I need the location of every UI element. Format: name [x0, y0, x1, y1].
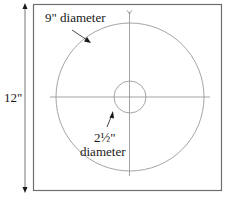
square-outline	[34, 5, 222, 191]
diagram-canvas	[0, 0, 226, 198]
inner-diameter-label-line2: diameter	[80, 145, 125, 158]
height-label: 12"	[4, 91, 22, 104]
height-dimension-arrow	[23, 3, 28, 193]
crosshair-lines	[50, 10, 210, 176]
outer-diameter-label: 9" diameter	[45, 11, 106, 24]
inner-diameter-leader-arrow	[107, 111, 114, 127]
inner-diameter-label-line1: 2½"	[94, 131, 116, 144]
